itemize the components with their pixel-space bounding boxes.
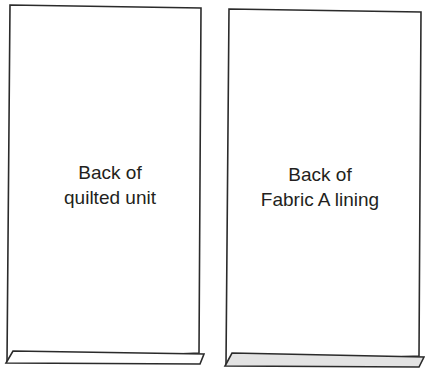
label-line-1: Back of	[40, 160, 180, 185]
label-line-1: Back of	[240, 162, 400, 187]
label-line-2: quilted unit	[40, 185, 180, 210]
label-quilted-unit: Back of quilted unit	[40, 160, 180, 210]
label-fabric-a-lining: Back of Fabric A lining	[240, 162, 400, 212]
folded-flap	[6, 351, 204, 364]
label-line-2: Fabric A lining	[240, 187, 400, 212]
